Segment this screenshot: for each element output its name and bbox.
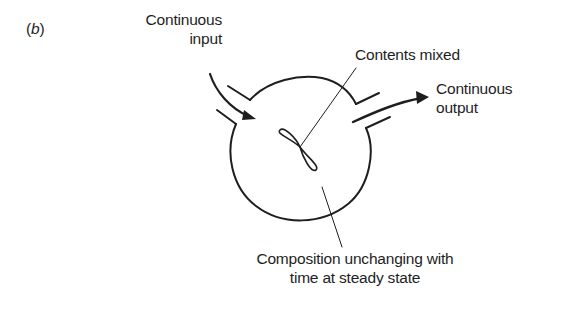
- input-arrowhead: [242, 110, 256, 120]
- outlet-pipe-lower: [366, 117, 390, 128]
- output-arrowhead: [416, 91, 429, 104]
- impeller-icon: [279, 129, 316, 170]
- reactor-diagram: [0, 0, 562, 313]
- outlet-pipe-upper: [356, 93, 379, 104]
- inlet-pipe-lower: [217, 110, 236, 124]
- inlet-pipe-upper: [228, 86, 250, 100]
